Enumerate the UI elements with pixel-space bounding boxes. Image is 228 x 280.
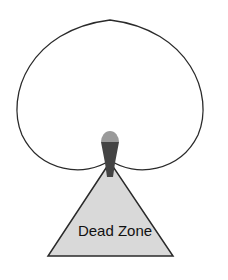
dead-zone-label: Dead Zone (60, 222, 170, 239)
